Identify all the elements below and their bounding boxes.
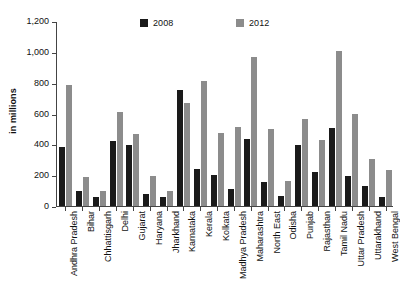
bar-2008 bbox=[76, 191, 82, 206]
bar-group bbox=[327, 22, 344, 206]
x-axis-label: Madhya Pradesh bbox=[238, 211, 248, 279]
x-axis-label: Jharkhand bbox=[171, 211, 181, 253]
y-axis-title: in millions bbox=[8, 71, 18, 151]
bar-2008 bbox=[177, 90, 183, 206]
bar-2012 bbox=[167, 191, 173, 206]
x-axis-label: West Bengal bbox=[390, 211, 400, 262]
bar-group bbox=[242, 22, 259, 206]
bar-2008 bbox=[244, 139, 250, 206]
bar-group bbox=[259, 22, 276, 206]
x-axis-label: Uttar Pradesh bbox=[356, 211, 366, 267]
bar-2012 bbox=[268, 129, 274, 206]
bar-2008 bbox=[379, 197, 385, 206]
bar-group bbox=[293, 22, 310, 206]
bar-2012 bbox=[235, 127, 241, 206]
bar-2008 bbox=[211, 175, 217, 206]
bar-group bbox=[91, 22, 108, 206]
x-axis-label: North East bbox=[272, 211, 282, 254]
bar-2012 bbox=[117, 112, 123, 206]
bar-2012 bbox=[369, 159, 375, 206]
y-axis-tick: 1,200 bbox=[52, 22, 56, 23]
x-axis-label: Kerala bbox=[204, 211, 214, 237]
x-axis-label: Chhattisgarh bbox=[103, 211, 113, 262]
bar-2008 bbox=[312, 172, 318, 206]
bar-group bbox=[175, 22, 192, 206]
y-axis-tick: 800 bbox=[52, 84, 56, 85]
bar-2012 bbox=[319, 140, 325, 206]
x-axis-label: Bihar bbox=[86, 211, 96, 232]
bar-2008 bbox=[59, 147, 65, 206]
bar-2008 bbox=[228, 189, 234, 206]
bar-group bbox=[310, 22, 327, 206]
bar-2008 bbox=[143, 194, 149, 206]
bar-2008 bbox=[194, 169, 200, 206]
bar-2012 bbox=[201, 81, 207, 206]
x-axis-label: Kolkata bbox=[221, 211, 231, 241]
bar-2012 bbox=[336, 51, 342, 206]
x-axis-label: Delhi bbox=[120, 211, 130, 232]
bar-2012 bbox=[150, 176, 156, 206]
bar-2012 bbox=[218, 133, 224, 206]
x-axis-label: Maharashtra bbox=[255, 211, 265, 262]
bar-group bbox=[158, 22, 175, 206]
bar-group bbox=[226, 22, 243, 206]
x-axis-label: Tamil Nadu bbox=[339, 211, 349, 256]
y-axis-tick: 0 bbox=[52, 207, 56, 208]
bar-group bbox=[141, 22, 158, 206]
x-axis-label: Odisha bbox=[288, 211, 298, 240]
bar-2008 bbox=[362, 186, 368, 206]
bar-2008 bbox=[345, 176, 351, 206]
bar-group bbox=[124, 22, 141, 206]
bar-2012 bbox=[66, 85, 72, 206]
y-axis-tick: 600 bbox=[52, 115, 56, 116]
y-axis-tick-label: 1,200 bbox=[26, 16, 49, 27]
x-axis-label: Andhra Pradesh bbox=[69, 211, 79, 276]
bar-2012 bbox=[184, 103, 190, 206]
bar-2008 bbox=[126, 145, 132, 206]
x-axis-label: Haryana bbox=[154, 211, 164, 245]
bar-group bbox=[343, 22, 360, 206]
bar-2012 bbox=[285, 181, 291, 206]
bar-2008 bbox=[329, 128, 335, 206]
bar-2008 bbox=[160, 197, 166, 206]
y-axis-tick-label: 200 bbox=[34, 170, 49, 181]
bar-2012 bbox=[251, 57, 257, 206]
x-axis-label: Rajasthan bbox=[322, 211, 332, 252]
bar-2008 bbox=[261, 182, 267, 206]
bar-series-container bbox=[57, 22, 393, 206]
plot-area: 02004006008001,0001,200 bbox=[56, 22, 393, 207]
bar-group bbox=[74, 22, 91, 206]
bar-group bbox=[276, 22, 293, 206]
y-axis-tick: 1,000 bbox=[52, 53, 56, 54]
bar-2012 bbox=[83, 177, 89, 206]
bar-2012 bbox=[302, 119, 308, 206]
y-axis-tick-label: 800 bbox=[34, 78, 49, 89]
bar-group bbox=[209, 22, 226, 206]
bar-2008 bbox=[110, 141, 116, 206]
bar-group bbox=[57, 22, 74, 206]
x-axis-label: Uttarakhand bbox=[373, 211, 383, 260]
bar-2008 bbox=[295, 145, 301, 206]
x-axis-label: Karnataka bbox=[187, 211, 197, 252]
y-axis-tick-label: 1,000 bbox=[26, 47, 49, 58]
bar-2012 bbox=[386, 170, 392, 206]
bar-group bbox=[108, 22, 125, 206]
bar-2008 bbox=[93, 197, 99, 206]
x-axis-label: Gujarat bbox=[137, 211, 147, 241]
y-axis-tick: 400 bbox=[52, 145, 56, 146]
bar-2012 bbox=[133, 134, 139, 206]
y-axis-tick: 200 bbox=[52, 176, 56, 177]
x-axis-label: Punjab bbox=[305, 211, 315, 239]
y-axis-tick-label: 0 bbox=[44, 201, 49, 212]
y-axis-tick-label: 600 bbox=[34, 109, 49, 120]
y-axis-tick-label: 400 bbox=[34, 139, 49, 150]
x-axis-labels: Andhra PradeshBiharChhattisgarhDelhiGuja… bbox=[57, 211, 394, 303]
bar-group bbox=[360, 22, 377, 206]
bar-group bbox=[377, 22, 394, 206]
bar-2012 bbox=[100, 191, 106, 206]
bar-group bbox=[192, 22, 209, 206]
bar-2012 bbox=[352, 114, 358, 207]
bar-2008 bbox=[278, 196, 284, 206]
